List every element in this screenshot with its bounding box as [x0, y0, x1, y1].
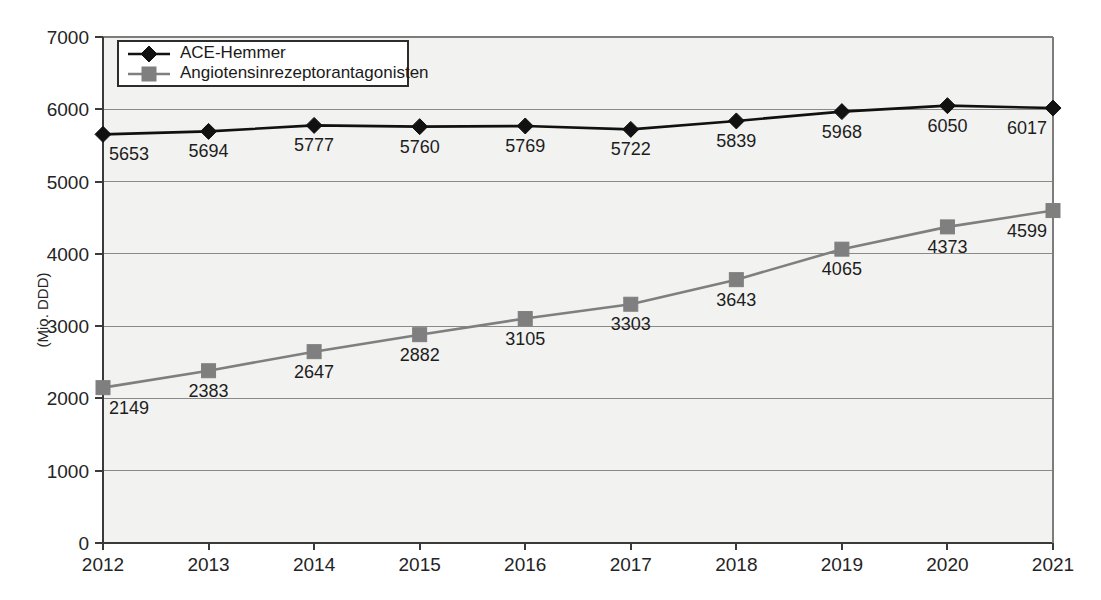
point-label-ace-2013: 5694: [189, 141, 229, 161]
data-point-arb-2020: [940, 220, 954, 234]
y-tick-label-7000: 7000: [47, 27, 89, 48]
y-tick-label-2000: 2000: [47, 388, 89, 409]
point-label-ace-2020: 6050: [927, 116, 967, 136]
x-tick-label-2021: 2021: [1032, 554, 1074, 575]
chart-legend: ACE-HemmerAngiotensinrezeptorantagoniste…: [118, 41, 429, 86]
point-label-ace-2017: 5722: [611, 139, 651, 159]
y-tick-label-0: 0: [78, 533, 89, 554]
data-point-arb-2018: [729, 273, 743, 287]
line-chart: 01000200030004000500060007000 2012201320…: [0, 0, 1101, 600]
x-tick-label-2015: 2015: [399, 554, 441, 575]
data-point-arb-2012: [96, 381, 110, 395]
point-label-arb-2017: 3303: [611, 314, 651, 334]
point-label-arb-2016: 3105: [505, 329, 545, 349]
x-tick-label-2014: 2014: [293, 554, 336, 575]
point-label-ace-2012: 5653: [109, 144, 149, 164]
point-label-arb-2012: 2149: [109, 398, 149, 418]
data-point-arb-2021: [1046, 204, 1060, 218]
x-tick-label-2013: 2013: [187, 554, 229, 575]
legend-label-ace-hemmer: ACE-Hemmer: [180, 43, 286, 62]
data-point-arb-2019: [835, 242, 849, 256]
plot-background: [103, 37, 1053, 543]
point-label-arb-2018: 3643: [716, 290, 756, 310]
point-label-ace-2015: 5760: [400, 137, 440, 157]
x-axis-tick-labels: 2012201320142015201620172018201920202021: [82, 554, 1074, 575]
point-label-ace-2014: 5777: [294, 135, 334, 155]
data-point-arb-2013: [202, 364, 216, 378]
x-tick-label-2017: 2017: [610, 554, 652, 575]
point-label-arb-2020: 4373: [927, 237, 967, 257]
point-label-arb-2019: 4065: [822, 259, 862, 279]
plot-area-background: [103, 37, 1053, 543]
point-label-arb-2015: 2882: [400, 345, 440, 365]
data-point-arb-2016: [518, 312, 532, 326]
point-label-arb-2014: 2647: [294, 362, 334, 382]
y-tick-label-5000: 5000: [47, 172, 89, 193]
data-point-arb-2015: [413, 328, 427, 342]
legend-label-angiotensinrezeptorantagonisten: Angiotensinrezeptorantagonisten: [180, 63, 429, 82]
x-tick-label-2018: 2018: [715, 554, 757, 575]
data-point-arb-2017: [624, 297, 638, 311]
chart-container: 01000200030004000500060007000 2012201320…: [0, 0, 1101, 600]
x-tick-label-2016: 2016: [504, 554, 546, 575]
x-tick-label-2020: 2020: [926, 554, 968, 575]
y-tick-label-6000: 6000: [47, 99, 89, 120]
data-point-arb-2014: [307, 345, 321, 359]
legend-marker-square-icon: [142, 67, 156, 81]
y-axis-title: (Mio. DDD): [34, 273, 51, 348]
x-tick-label-2012: 2012: [82, 554, 124, 575]
point-label-ace-2021: 6017: [1007, 118, 1047, 138]
y-axis-title-text: (Mio. DDD): [34, 273, 51, 348]
y-tick-label-4000: 4000: [47, 244, 89, 265]
point-label-arb-2021: 4599: [1007, 221, 1047, 241]
point-label-ace-2018: 5839: [716, 131, 756, 151]
y-axis-tick-labels: 01000200030004000500060007000: [47, 27, 89, 554]
point-label-ace-2019: 5968: [822, 122, 862, 142]
point-label-arb-2013: 2383: [189, 381, 229, 401]
x-tick-label-2019: 2019: [821, 554, 863, 575]
y-tick-label-1000: 1000: [47, 461, 89, 482]
y-tick-label-3000: 3000: [47, 316, 89, 337]
point-label-ace-2016: 5769: [505, 136, 545, 156]
